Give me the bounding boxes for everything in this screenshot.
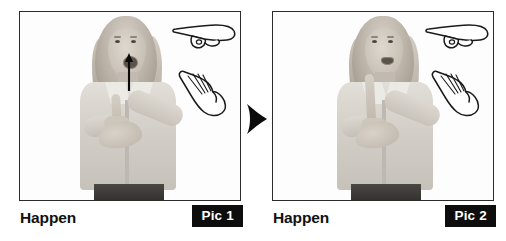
sequence-panel: Happen Pic 1 — [19, 11, 243, 234]
eyebrow-right — [130, 36, 137, 38]
sign-photo — [20, 12, 240, 200]
eyebrow-left — [371, 36, 378, 38]
pic-badge: Pic 1 — [192, 205, 243, 227]
mouth — [381, 57, 394, 65]
sequence-panel: Happen Pic 2 — [272, 11, 496, 234]
eye-left — [115, 40, 120, 43]
sign-language-sequence: Happen Pic 1 — [0, 0, 506, 241]
up-arrow-icon — [124, 53, 134, 91]
trousers — [351, 184, 421, 200]
sign-word-label: Happen — [273, 209, 329, 227]
trousers — [94, 184, 164, 200]
panel-caption: Happen Pic 2 — [272, 207, 496, 235]
eyebrow-right — [387, 36, 394, 38]
pic-badge: Pic 2 — [445, 205, 496, 227]
panel-caption: Happen Pic 1 — [19, 207, 243, 235]
pointing-hand-icon — [423, 20, 491, 54]
flat-palm-hand-icon — [172, 64, 234, 126]
photo-frame — [272, 11, 494, 201]
eye-left — [372, 40, 377, 43]
right-arrow-icon — [246, 103, 268, 135]
sign-word-label: Happen — [20, 209, 76, 227]
eyebrow-left — [114, 36, 121, 38]
pointing-hand-icon — [170, 20, 238, 54]
photo-frame — [19, 11, 241, 201]
eye-right — [131, 40, 136, 43]
eye-right — [388, 40, 393, 43]
sign-photo — [273, 12, 493, 200]
flat-palm-hand-icon — [425, 64, 487, 126]
